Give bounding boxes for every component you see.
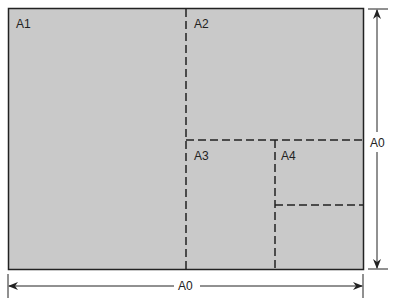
label-width-a0: A0	[178, 279, 193, 293]
label-a2: A2	[194, 17, 209, 31]
label-a1: A1	[16, 17, 31, 31]
paper-size-diagram: A1 A2 A3 A4 A0 A0	[0, 0, 398, 304]
label-height-a0: A0	[370, 136, 385, 150]
label-a4: A4	[281, 149, 296, 163]
label-a3: A3	[194, 149, 209, 163]
